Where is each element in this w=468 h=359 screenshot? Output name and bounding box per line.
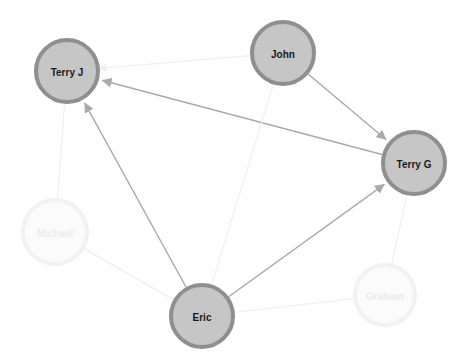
graph-edge[interactable] [308,74,386,140]
graph-node-michael[interactable]: Michael [23,200,87,264]
network-graph[interactable]: Terry JJohnTerry GEricMichaelGraham [0,0,468,359]
graph-edge[interactable] [234,299,354,313]
node-circle[interactable] [355,265,415,325]
graph-canvas[interactable]: Terry JJohnTerry GEricMichaelGraham [0,0,468,359]
node-circle[interactable] [383,132,445,194]
graph-node-graham[interactable]: Graham [355,265,415,325]
node-circle[interactable] [171,285,233,347]
graph-edge[interactable] [85,103,187,288]
graph-edge[interactable] [57,103,64,199]
edge-layer [57,56,407,313]
graph-edge[interactable] [99,56,251,69]
graph-node-eric[interactable]: Eric [171,285,233,347]
graph-edge[interactable] [103,80,383,154]
graph-node-john[interactable]: John [252,22,314,84]
graph-edge[interactable] [84,248,175,300]
graph-edge[interactable] [211,84,273,286]
graph-node-terry_g[interactable]: Terry G [383,132,445,194]
node-circle[interactable] [36,40,98,102]
node-circle[interactable] [23,200,87,264]
node-layer: Terry JJohnTerry GEricMichaelGraham [23,22,445,347]
graph-node-terry_j[interactable]: Terry J [36,40,98,102]
graph-edge[interactable] [392,194,407,264]
node-circle[interactable] [252,22,314,84]
